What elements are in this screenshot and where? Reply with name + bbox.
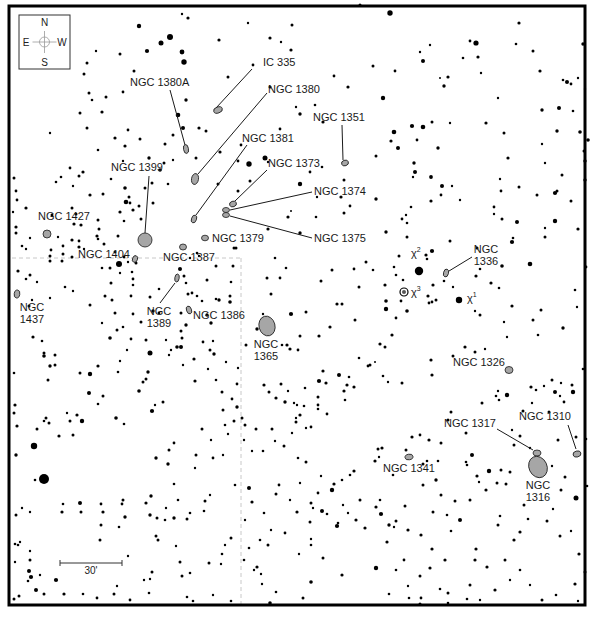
star xyxy=(321,369,324,372)
star xyxy=(430,249,434,253)
star xyxy=(21,507,23,509)
star xyxy=(62,592,65,595)
star xyxy=(443,280,446,283)
star xyxy=(14,225,17,228)
star xyxy=(229,295,232,298)
star xyxy=(119,272,121,274)
star xyxy=(538,69,541,72)
star xyxy=(466,464,469,467)
galaxy-ngc-1326[interactable] xyxy=(505,367,513,374)
galaxy-ngc-1317[interactable] xyxy=(533,450,541,456)
star xyxy=(465,432,468,435)
star xyxy=(217,38,220,41)
star xyxy=(404,505,407,508)
star xyxy=(62,503,65,506)
star xyxy=(395,569,398,572)
galaxy-ngc-1427[interactable] xyxy=(43,230,51,238)
star xyxy=(131,271,134,274)
star xyxy=(71,256,74,259)
star xyxy=(440,442,443,445)
galaxy-ngc-1399[interactable] xyxy=(138,233,152,247)
star xyxy=(108,336,112,340)
star xyxy=(451,185,453,187)
star xyxy=(341,479,344,482)
star xyxy=(571,390,575,394)
star xyxy=(266,227,269,230)
star-chi3[interactable] xyxy=(402,290,406,294)
star xyxy=(270,529,272,531)
star xyxy=(387,381,389,383)
star xyxy=(299,482,301,484)
star xyxy=(279,128,282,131)
star xyxy=(412,161,415,164)
star xyxy=(458,518,462,522)
star xyxy=(225,361,227,363)
star xyxy=(574,496,579,501)
star xyxy=(118,210,121,213)
star xyxy=(552,508,554,510)
star xyxy=(342,504,344,506)
star xyxy=(78,501,82,505)
galaxy-ngc-1375[interactable] xyxy=(223,213,230,218)
star xyxy=(390,333,393,336)
star xyxy=(164,519,167,522)
star xyxy=(235,405,238,408)
star xyxy=(31,335,34,338)
star xyxy=(475,474,478,477)
star xyxy=(201,428,204,431)
star xyxy=(346,85,349,88)
star xyxy=(449,122,451,124)
star xyxy=(317,379,321,383)
star xyxy=(172,134,175,137)
star xyxy=(114,416,118,420)
star xyxy=(167,183,170,186)
galaxy-ngc-1387[interactable] xyxy=(180,244,187,250)
star xyxy=(36,281,38,283)
star xyxy=(406,222,409,225)
star xyxy=(332,482,335,485)
galaxy-ngc-1374[interactable] xyxy=(223,208,230,213)
star xyxy=(116,261,122,267)
star xyxy=(315,216,318,219)
star xyxy=(149,578,151,580)
star xyxy=(232,265,235,268)
star xyxy=(152,202,155,205)
star-chi2[interactable] xyxy=(415,267,423,275)
star xyxy=(312,507,314,509)
star xyxy=(129,599,132,602)
star xyxy=(155,535,158,538)
star xyxy=(420,597,423,600)
star xyxy=(540,108,543,111)
star xyxy=(474,310,476,312)
star xyxy=(230,281,233,284)
star xyxy=(217,298,220,301)
star xyxy=(309,171,312,174)
star xyxy=(29,575,33,579)
star xyxy=(262,383,265,386)
star xyxy=(405,449,408,452)
star xyxy=(252,64,255,67)
star xyxy=(375,155,378,158)
star xyxy=(16,199,19,202)
star xyxy=(406,528,409,531)
star xyxy=(88,193,91,196)
star xyxy=(27,569,31,573)
star xyxy=(266,277,269,280)
star xyxy=(72,222,75,225)
star xyxy=(476,55,479,58)
star xyxy=(283,445,286,448)
star xyxy=(18,595,21,598)
star xyxy=(324,381,327,384)
star-chi1[interactable] xyxy=(456,297,462,303)
star xyxy=(326,513,329,516)
star xyxy=(202,341,205,344)
star xyxy=(317,408,320,411)
star xyxy=(410,206,413,209)
star xyxy=(553,191,557,195)
galaxy-ngc-1379[interactable] xyxy=(202,235,209,241)
star xyxy=(347,512,349,514)
galaxy-label-ngc-1373: NGC 1373 xyxy=(268,157,320,169)
galaxy-label-ngc-1365: 1365 xyxy=(254,350,278,362)
star xyxy=(97,403,100,406)
star xyxy=(353,268,356,271)
